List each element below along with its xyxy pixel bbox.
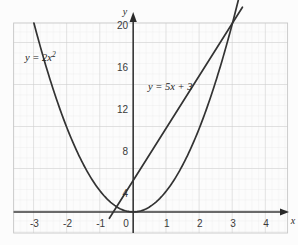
x-tick-label-origin: 0 [123,218,129,229]
x-tick-label: -1 [96,218,105,229]
x-tick-label: -2 [63,218,72,229]
y-tick-label: 8 [122,146,128,157]
x-tick-label: 3 [230,218,236,229]
y-axis-name: y [122,6,128,17]
x-axis-name: x [290,215,296,226]
x-tick-label: 2 [197,218,203,229]
y-tick-label: 16 [117,62,129,73]
y-tick-label: 12 [117,104,129,115]
x-tick-label: -3 [30,218,39,229]
line-label: y = 5x + 3 [147,81,193,92]
y-tick-label: 20 [117,20,129,31]
graph-figure: y x -3 -2 -1 0 1 2 3 4 20 16 12 8 4 y = … [0,0,298,245]
parabola-label: y = 2x2 [24,50,56,63]
x-tick-label: 1 [164,218,170,229]
x-tick-label: 4 [263,218,269,229]
